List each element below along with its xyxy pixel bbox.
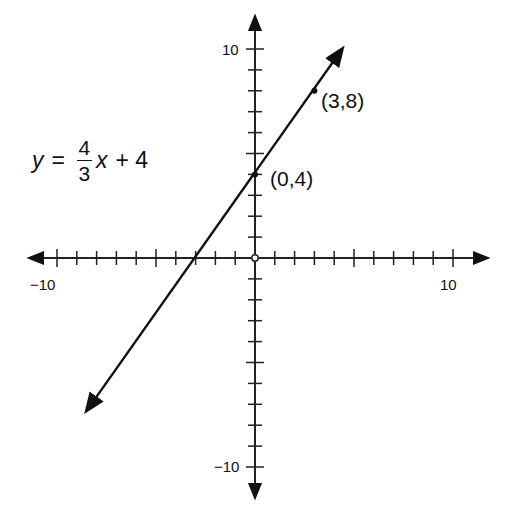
x-max-label: 10 <box>440 276 457 293</box>
point-3-8 <box>311 88 317 94</box>
point-3-8-label: (3,8) <box>321 89 364 112</box>
slope-numerator: 4 <box>79 137 91 158</box>
point-0-4-label: (0,4) <box>270 167 313 190</box>
y-max-label: 10 <box>222 41 239 58</box>
function-line <box>87 49 342 411</box>
slope-denominator: 3 <box>79 163 91 184</box>
fraction-bar <box>77 160 92 161</box>
slope-fraction: 4 3 <box>77 137 92 184</box>
origin-marker <box>252 255 258 261</box>
equation-lhs: y <box>32 147 44 174</box>
coordinate-plane: −10 10 10 −10 (3,8) (0,4) y = 4 3 x + 4 <box>0 0 513 517</box>
equation-rest: + 4 <box>115 147 148 174</box>
equation-var: x <box>96 147 108 174</box>
equation-equals: = <box>52 147 65 174</box>
graph-canvas: −10 10 10 −10 (3,8) (0,4) <box>0 0 513 517</box>
point-0-4 <box>252 171 258 177</box>
x-min-label: −10 <box>30 276 55 293</box>
y-min-label: −10 <box>214 458 239 475</box>
equation-label: y = 4 3 x + 4 <box>32 137 148 184</box>
